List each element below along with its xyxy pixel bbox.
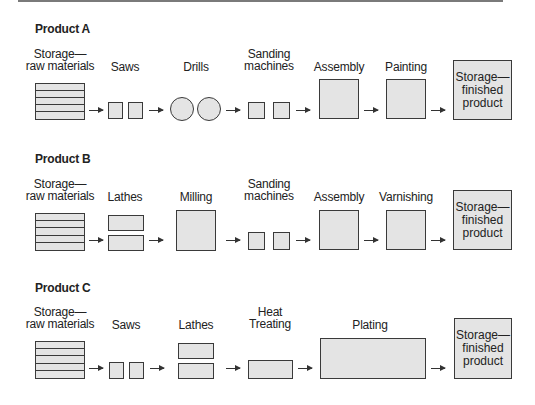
storage-raw-stack [35,83,85,120]
painting-box [386,79,426,119]
arrow [150,368,164,369]
lathe-box [178,363,214,379]
lathe-box [178,343,214,359]
label-varnishing: Varnishing [379,191,433,203]
label-plating: Plating [352,319,387,331]
lathe-box [108,235,144,251]
milling-box [176,210,216,251]
sanding-box [248,102,265,119]
saw-box [109,362,124,379]
label-drills: Drills [183,61,208,73]
arrow [296,240,310,241]
varnishing-box [386,210,426,250]
label-saws: Saws [111,61,140,73]
label-assembly: Assembly [314,191,364,203]
label-saws: Saws [112,319,141,331]
lathe-box [108,215,144,231]
arrow [364,110,378,111]
label-sanding: Sanding machines [244,48,294,72]
arrow [296,110,310,111]
label-heat-treating: Heat Treating [249,306,291,330]
arrow [431,368,445,369]
arrow [149,110,163,111]
arrow [226,240,240,241]
storage-finished-box: Storage— finished product [453,60,512,120]
product-b-title: Product B [35,152,91,166]
heat-treating-box [248,360,293,379]
sanding-box [273,102,290,119]
arrow [89,240,103,241]
label-lathes: Lathes [179,319,214,331]
arrow [89,368,103,369]
arrow [89,110,103,111]
storage-finished-box: Storage— finished product [453,190,512,250]
arrow [226,368,240,369]
label-painting: Painting [385,61,427,73]
arrow [431,110,445,111]
plating-box [320,338,426,379]
label-lathes: Lathes [108,191,143,203]
label-sanding: Sanding machines [244,178,294,202]
arrow [226,110,240,111]
drill-circle [170,97,194,121]
label-storage-raw: Storage— raw materials [26,178,95,202]
arrow [364,240,378,241]
drill-circle [197,97,221,121]
storage-raw-stack [35,341,85,379]
arrow [298,368,312,369]
saw-box [128,102,143,119]
top-rule [18,0,503,2]
assembly-box [319,79,359,119]
label-assembly: Assembly [314,61,364,73]
storage-finished-box: Storage— finished product [454,318,512,379]
product-a-title: Product A [35,22,90,36]
saw-box [129,362,144,379]
assembly-box [319,210,359,250]
saw-box [108,102,123,119]
label-storage-raw: Storage— raw materials [26,48,95,72]
product-c-title: Product C [35,281,91,295]
label-storage-raw: Storage— raw materials [26,306,95,330]
arrow [149,240,163,241]
label-milling: Milling [180,191,213,203]
arrow [431,240,445,241]
storage-raw-stack [35,213,85,251]
sanding-box [248,232,265,250]
sanding-box [273,232,290,250]
